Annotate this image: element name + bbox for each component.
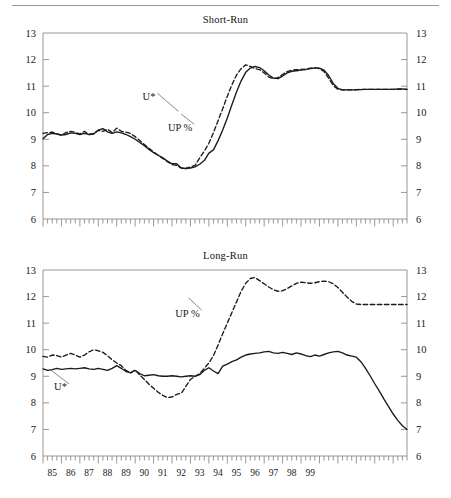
x-tick-label: 92 [176, 468, 186, 478]
y-tick-label-right: 8 [416, 397, 421, 408]
series-line-up [43, 277, 407, 397]
annotation-leader-line [157, 93, 178, 111]
y-tick-label-right: 9 [416, 134, 421, 145]
y-tick-label-right: 13 [416, 265, 427, 276]
y-tick-label-left: 8 [31, 160, 36, 171]
y-tick-label-left: 9 [31, 134, 36, 145]
series-line-u [43, 65, 407, 169]
y-tick-label-left: 9 [31, 371, 36, 382]
y-tick-label-left: 8 [31, 397, 36, 408]
x-tick-label: 90 [140, 468, 150, 478]
y-tick-label-right: 10 [416, 107, 427, 118]
header-rule [12, 5, 439, 6]
y-tick-label-left: 12 [26, 291, 37, 302]
y-tick-label-right: 6 [416, 214, 421, 225]
y-tick-label-right: 11 [416, 81, 426, 92]
series-annotation-label: UP % [168, 122, 193, 133]
y-tick-label-left: 13 [26, 28, 37, 39]
x-tick-label: 93 [195, 468, 205, 478]
x-tick-label: 96 [250, 468, 260, 478]
y-tick-label-left: 11 [26, 81, 36, 92]
y-tick-label-left: 6 [31, 451, 36, 462]
y-tick-label-right: 7 [416, 424, 421, 435]
y-tick-label-left: 7 [31, 187, 36, 198]
short-run-chart-svg: 667788991010111112121313U*UP % [0, 14, 451, 246]
y-tick-label-left: 10 [26, 107, 37, 118]
x-tick-label: 94 [213, 468, 223, 478]
series-line-up [43, 66, 407, 168]
x-tick-label: 97 [269, 468, 279, 478]
y-tick-label-left: 6 [31, 214, 36, 225]
x-tick-label: 95 [232, 468, 242, 478]
y-tick-label-right: 7 [416, 187, 421, 198]
chart-panel-long-run: Long-Run 6677889910101111121213138586878… [0, 250, 451, 498]
y-tick-label-left: 10 [26, 344, 37, 355]
y-tick-label-right: 10 [416, 344, 427, 355]
y-tick-label-right: 9 [416, 371, 421, 382]
x-tick-label: 87 [84, 468, 94, 478]
y-tick-label-left: 7 [31, 424, 36, 435]
long-run-chart-svg: 6677889910101111121213138586878889909192… [0, 250, 451, 498]
y-tick-label-right: 12 [416, 291, 427, 302]
x-tick-label: 98 [287, 468, 297, 478]
x-tick-label: 86 [66, 468, 76, 478]
y-tick-label-left: 12 [26, 54, 37, 65]
series-annotation-label: U* [54, 381, 67, 392]
x-tick-label: 85 [47, 468, 57, 478]
y-tick-label-left: 11 [26, 318, 36, 329]
series-line-u [43, 351, 407, 429]
x-tick-label: 89 [121, 468, 131, 478]
x-tick-label: 91 [158, 468, 168, 478]
y-tick-label-right: 13 [416, 28, 427, 39]
series-annotation-label: U* [143, 91, 156, 102]
y-tick-label-right: 8 [416, 160, 421, 171]
x-tick-label: 99 [305, 468, 315, 478]
series-annotation-label: UP % [175, 308, 200, 319]
y-tick-label-right: 11 [416, 318, 426, 329]
y-tick-label-left: 13 [26, 265, 37, 276]
figure-page: Short-Run 667788991010111112121313U*UP %… [0, 0, 451, 498]
y-tick-label-right: 6 [416, 451, 421, 462]
chart-panel-short-run: Short-Run 667788991010111112121313U*UP % [0, 14, 451, 246]
x-tick-label: 88 [103, 468, 113, 478]
y-tick-label-right: 12 [416, 54, 427, 65]
